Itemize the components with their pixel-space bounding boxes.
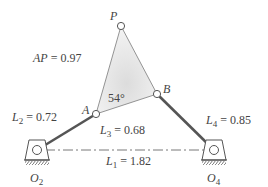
four-bar-linkage-diagram: P A B O2 O4 54° AP = 0.97 L2 = 0.72 L3 =… [0, 0, 268, 187]
label-ap: AP = 0.97 [32, 51, 81, 65]
joint-a [92, 110, 99, 117]
label-a: A [81, 103, 90, 117]
ground-pivot-o2 [24, 140, 50, 165]
label-l3: L3 = 0.68 [99, 123, 145, 139]
joint-b [153, 90, 160, 97]
label-l4: L4 = 0.85 [205, 113, 251, 129]
point-p [117, 22, 124, 29]
label-o4: O4 [207, 171, 221, 187]
label-p: P [109, 9, 118, 23]
label-l2: L2 = 0.72 [11, 110, 57, 126]
ground-pivot-o4 [201, 140, 227, 165]
label-b: B [163, 82, 171, 96]
label-o2: O2 [30, 171, 43, 187]
label-l1: L1 = 1.82 [105, 154, 151, 170]
coupler-triangle [96, 26, 157, 114]
coupler-angle-label: 54° [108, 91, 125, 105]
